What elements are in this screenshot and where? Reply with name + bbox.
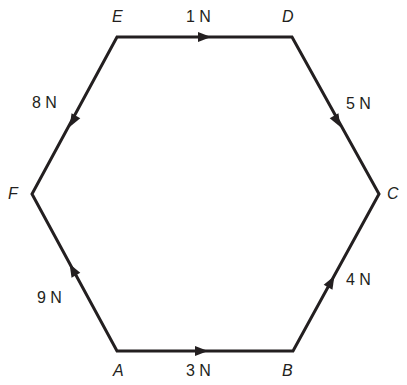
force-label-AF: 9 N — [37, 290, 62, 306]
force-label-AB: 3 N — [186, 363, 211, 379]
arrow-icon-ED — [198, 32, 211, 42]
vertex-label-A: A — [113, 363, 124, 379]
force-label-BC: 4 N — [346, 272, 371, 288]
hexagon-outline — [32, 37, 379, 351]
vertex-label-F: F — [8, 186, 18, 202]
arrow-icon-AF — [65, 261, 80, 277]
vertex-label-D: D — [282, 9, 294, 25]
vertex-label-B: B — [282, 363, 293, 379]
force-label-DC: 5 N — [346, 96, 371, 112]
vertex-label-E: E — [112, 9, 123, 25]
hexagon-diagram — [0, 0, 407, 385]
force-label-ED: 1 N — [186, 9, 211, 25]
force-label-EF: 8 N — [32, 95, 57, 111]
arrow-icon-BC — [324, 273, 339, 289]
arrow-icon-AB — [195, 346, 208, 356]
vertex-label-C: C — [387, 186, 399, 202]
